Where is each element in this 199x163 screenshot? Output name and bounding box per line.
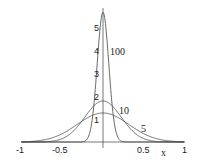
x-tick-label: 0.5: [137, 146, 150, 155]
y-tick-label: 2: [94, 93, 99, 102]
x-axis-label: x: [161, 148, 166, 157]
curve-label-100: 100: [110, 47, 125, 56]
x-tick-label: 1: [182, 146, 187, 155]
y-tick-label: 1: [94, 116, 99, 125]
curve-label-5: 5: [141, 124, 146, 133]
curve-label-10: 10: [119, 106, 129, 115]
x-tick-label: -1: [16, 146, 24, 155]
y-tick-label: 3: [94, 70, 99, 79]
x-tick-label: -0.5: [52, 146, 68, 155]
chart-plot: [0, 0, 199, 163]
y-tick-label: 4: [94, 47, 99, 56]
y-tick-label: 5: [94, 24, 99, 33]
